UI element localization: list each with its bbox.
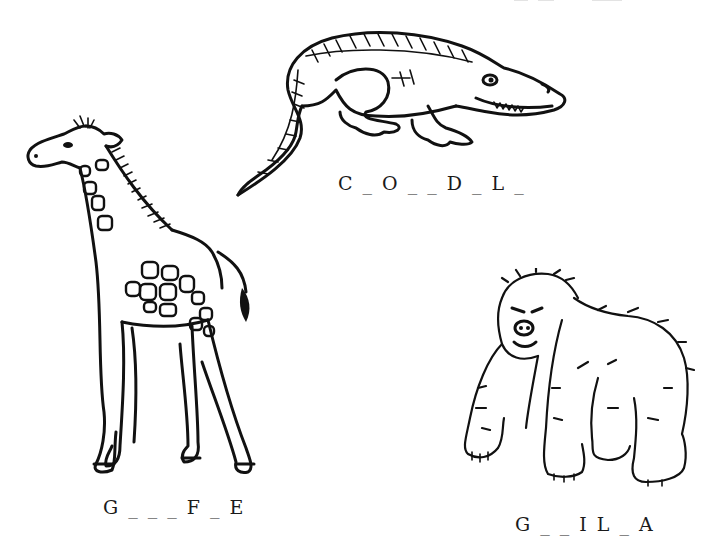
giraffe-drawing-icon [22, 112, 262, 482]
gorilla-drawing-icon [458, 268, 698, 498]
crocodile-word-puzzle: C _ O _ _ D _ L _ [338, 172, 526, 194]
giraffe-word-puzzle: G _ _ _ F _ E [103, 496, 245, 518]
gorilla-word-puzzle: G _ _ I L _ A [515, 513, 655, 535]
faint-top-marks [510, 0, 620, 2]
